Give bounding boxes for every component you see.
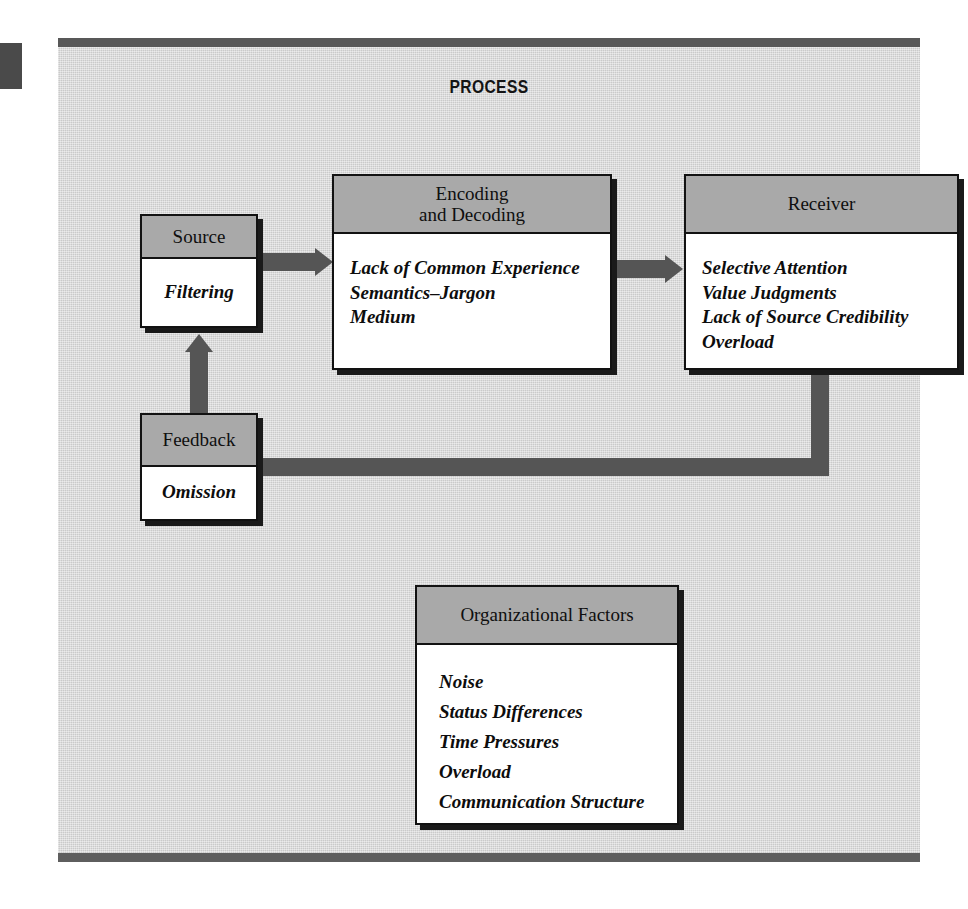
node-source: Source Filtering — [140, 214, 258, 328]
diagram-frame: PROCESS Source Filtering Encoding and De… — [58, 38, 920, 862]
node-organizational-factors-item: Status Differences — [439, 697, 677, 727]
arrow-feedback-to-source-head-icon — [185, 334, 213, 352]
diagram-title: PROCESS — [136, 76, 843, 98]
node-organizational-factors-item: Time Pressures — [439, 727, 677, 757]
node-organizational-factors-header: Organizational Factors — [417, 587, 677, 645]
arrow-encoding-to-receiver-head-icon — [665, 255, 683, 283]
node-encoding-header-line2: and Decoding — [419, 204, 525, 225]
arrow-source-to-encoding-head-icon — [315, 248, 333, 276]
node-feedback-item: Omission — [162, 480, 236, 505]
node-source-item: Filtering — [164, 280, 234, 305]
arrow-encoding-to-receiver-shaft — [615, 260, 667, 278]
node-receiver-item: Overload — [702, 330, 957, 355]
page-corner-marker — [0, 43, 22, 89]
node-feedback: Feedback Omission — [140, 413, 258, 521]
node-receiver-item: Lack of Source Credibility — [702, 305, 957, 330]
node-encoding-item: Medium — [350, 305, 610, 330]
arrow-source-to-encoding-shaft — [261, 253, 317, 271]
node-receiver-item: Selective Attention — [702, 256, 957, 281]
node-encoding-and-decoding: Encoding and Decoding Lack of Common Exp… — [332, 174, 612, 370]
node-organizational-factors-item: Communication Structure — [439, 787, 677, 817]
node-receiver-item: Value Judgments — [702, 281, 957, 306]
node-source-header: Source — [142, 216, 256, 259]
node-receiver-body: Selective Attention Value Judgments Lack… — [686, 234, 957, 367]
node-organizational-factors-item: Overload — [439, 757, 677, 787]
node-organizational-factors-body: Noise Status Differences Time Pressures … — [417, 645, 677, 822]
node-encoding-header-line1: Encoding — [436, 183, 509, 204]
node-encoding-body: Lack of Common Experience Semantics–Jarg… — [334, 234, 610, 367]
node-encoding-item: Lack of Common Experience — [350, 256, 610, 281]
node-feedback-body: Omission — [142, 467, 256, 518]
node-receiver: Receiver Selective Attention Value Judgm… — [684, 174, 959, 370]
arrow-receiver-to-feedback-horizontal-shaft — [254, 458, 829, 476]
frame-bottom-rule — [58, 853, 920, 862]
node-feedback-header: Feedback — [142, 415, 256, 467]
node-organizational-factors: Organizational Factors Noise Status Diff… — [415, 585, 679, 825]
node-receiver-header: Receiver — [686, 176, 957, 234]
node-source-body: Filtering — [142, 259, 256, 325]
node-organizational-factors-item: Noise — [439, 667, 677, 697]
frame-top-rule — [58, 38, 920, 47]
node-encoding-item: Semantics–Jargon — [350, 281, 610, 306]
arrow-feedback-to-source-shaft — [190, 350, 208, 416]
node-encoding-header: Encoding and Decoding — [334, 176, 610, 234]
